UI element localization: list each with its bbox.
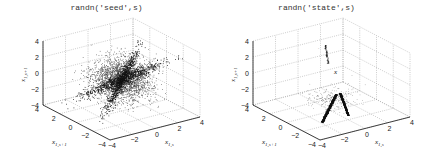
svg-text:0: 0 xyxy=(69,124,73,131)
plot-panel-state: randn('state',s) −4−4−4−2−2−2000222444x1… xyxy=(210,0,423,159)
scatter-points: x∙ xyxy=(302,45,365,123)
svg-text:x: x xyxy=(333,68,338,76)
svg-text:−2: −2 xyxy=(241,86,249,93)
scatter3d-plot: −4−4−4−2−2−2000222444x1,s+1x1,s+1x1,sx∙ xyxy=(210,0,423,159)
svg-text:−2: −2 xyxy=(341,136,349,143)
svg-text:0: 0 xyxy=(365,131,369,138)
svg-text:0: 0 xyxy=(279,124,283,131)
svg-text:2: 2 xyxy=(388,125,392,132)
svg-text:4: 4 xyxy=(35,106,39,113)
svg-text:∙: ∙ xyxy=(318,45,319,51)
z-axis-label: x1,s+1 xyxy=(19,67,29,83)
tick-labels: −4−4−4−2−2−2000222444x1,s+1x1,s+1x1,s xyxy=(19,38,204,150)
x-axis-label: x1,s xyxy=(164,138,174,148)
svg-text:−2: −2 xyxy=(81,132,89,139)
svg-text:−4: −4 xyxy=(318,142,326,149)
svg-text:2: 2 xyxy=(245,54,249,61)
svg-text:4: 4 xyxy=(410,119,414,126)
grid-lines xyxy=(253,18,410,140)
y-axis-label: x1,s+1 xyxy=(51,138,67,148)
y-axis-label: x1,s+1 xyxy=(261,138,277,148)
svg-text:−4: −4 xyxy=(308,141,316,148)
plot-panel-seed: randn('seed',s) −4−4−4−2−2−2000222444x1,… xyxy=(0,0,213,159)
svg-text:4: 4 xyxy=(200,119,204,126)
svg-text:0: 0 xyxy=(245,70,249,77)
svg-text:−2: −2 xyxy=(291,132,299,139)
x-axis-label: x1,s xyxy=(374,138,384,148)
svg-text:4: 4 xyxy=(245,106,249,113)
svg-text:0: 0 xyxy=(35,70,39,77)
z-axis-label: x1,s+1 xyxy=(229,67,239,83)
svg-text:2: 2 xyxy=(178,125,182,132)
svg-text:−2: −2 xyxy=(131,136,139,143)
svg-text:4: 4 xyxy=(35,38,39,45)
svg-text:2: 2 xyxy=(52,115,56,122)
svg-text:−2: −2 xyxy=(31,86,39,93)
svg-text:0: 0 xyxy=(155,131,159,138)
tick-labels: −4−4−4−2−2−2000222444x1,s+1x1,s+1x1,s xyxy=(229,38,414,150)
scatter3d-plot: −4−4−4−2−2−2000222444x1,s+1x1,s+1x1,s xyxy=(0,0,213,159)
svg-text:−4: −4 xyxy=(108,142,116,149)
svg-text:2: 2 xyxy=(35,54,39,61)
svg-text:4: 4 xyxy=(245,38,249,45)
svg-text:−4: −4 xyxy=(98,141,106,148)
axis-lines xyxy=(253,41,410,140)
svg-text:2: 2 xyxy=(262,115,266,122)
